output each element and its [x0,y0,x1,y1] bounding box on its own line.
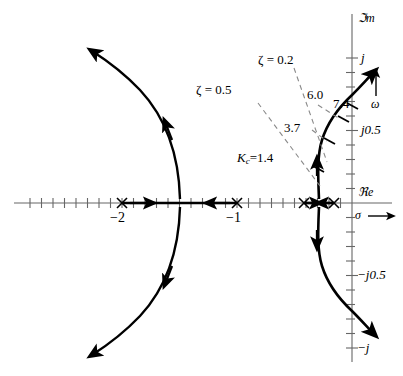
zeta-0p2-label: ζ = 0.2 [258,53,293,66]
gain-kc-label: Kc=1.4 [237,151,273,166]
real-tick-label-minus1: −1 [226,211,241,225]
real-axis-name-suffix: e [368,185,373,199]
imaginary-axis-name: ℑm [358,12,375,24]
imaginary-axis-name-prefix: ℑ [358,11,366,25]
gain-3p7-label: 3.7 [284,121,300,134]
omega-variable-label: ω [371,98,379,110]
gain-7p4-label: 7.4 [333,97,349,110]
real-axis-name: ℜe [358,186,373,198]
locus-branch-lower-left [92,207,180,355]
imag-tick-label-j: j [361,51,365,64]
gain-tick-3p7 [324,138,335,144]
gain-kc-equals: = [250,150,257,165]
imag-tick-label-minus-j: −j [357,341,369,354]
root-locus-canvas [0,0,403,376]
real-axis-name-prefix: ℜ [358,185,368,199]
gain-kc-value: 1.4 [257,150,273,165]
gain-kc-symbol: K [237,150,246,165]
zeta-0p5-line [258,103,320,186]
imag-tick-label-minus-j05: −j0.5 [357,268,386,281]
sigma-variable-label: σ [355,209,361,221]
axis-group [14,14,392,362]
gain-6p0-label: 6.0 [307,88,323,101]
zeta-0p2-line [294,68,327,162]
real-tick-label-minus2: −2 [110,211,125,225]
imaginary-axis-name-suffix: m [366,11,375,25]
gain-tick-6p0 [338,116,349,122]
imag-tick-label-j05: j0.5 [361,123,381,136]
root-locus-figure: ℑm ℜe σ ω j j0.5 −j0.5 −j −2 −1 ζ = 0.5 … [0,0,403,376]
zeta-0p5-label: ζ = 0.5 [196,83,231,96]
locus-branch-upper-left [92,51,180,199]
